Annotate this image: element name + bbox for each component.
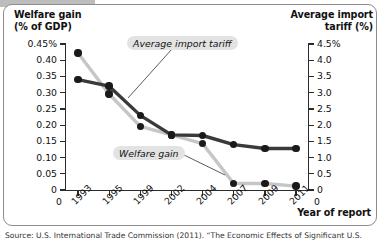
left-tick-label: 0.30 bbox=[36, 87, 57, 98]
right-tick-label: 4.0 bbox=[317, 54, 332, 65]
left-tick-label: 0.20 bbox=[36, 119, 57, 130]
zero-left: 0 bbox=[56, 196, 62, 207]
data-point bbox=[292, 145, 299, 152]
data-point bbox=[74, 49, 81, 56]
left-tick-label: 0.25 bbox=[36, 103, 57, 114]
right-tick-label: 3.5 bbox=[317, 70, 332, 81]
data-point bbox=[168, 131, 175, 138]
right-tick-label: 0.5 bbox=[317, 168, 332, 179]
right-tick-label: 0 bbox=[317, 184, 323, 195]
left-tick-label: 0.35 bbox=[36, 70, 57, 81]
right-tick-label: 1.0 bbox=[317, 152, 332, 163]
left-tick-label: 0.45% bbox=[27, 38, 57, 49]
data-point bbox=[137, 123, 144, 130]
right-tick-label: 3.0 bbox=[317, 87, 332, 98]
callout-average-import-tariff: Average import tariff bbox=[127, 36, 238, 50]
data-point bbox=[137, 112, 144, 119]
right-tick-label: 2.5 bbox=[317, 103, 332, 114]
right-tick-label: 2.0 bbox=[317, 119, 332, 130]
left-tick-label: 0.05 bbox=[36, 168, 57, 179]
callout-leader-tariff bbox=[128, 49, 172, 98]
right-tick-label: 4.5% bbox=[317, 38, 341, 49]
data-point bbox=[105, 82, 112, 89]
left-tick-label: 0 bbox=[51, 184, 57, 195]
right-tick-label: 1.5 bbox=[317, 135, 332, 146]
chart-figure: Welfare gain (% of GDP) Average import t… bbox=[0, 0, 383, 246]
data-point bbox=[261, 145, 268, 152]
source-note: Source: U.S. International Trade Commiss… bbox=[5, 231, 383, 240]
data-point bbox=[74, 76, 81, 83]
left-tick-label: 0.40 bbox=[36, 54, 57, 65]
zero-right: 0 bbox=[314, 196, 320, 207]
left-tick-label: 0.10 bbox=[36, 152, 57, 163]
line-average-import-tariff bbox=[78, 53, 296, 186]
data-point bbox=[105, 90, 112, 97]
callout-welfare-gain: Welfare gain bbox=[113, 146, 185, 160]
left-tick-label: 0.15 bbox=[36, 135, 57, 146]
